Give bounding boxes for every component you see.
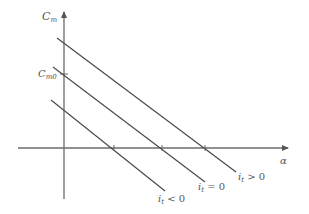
label-it-positive: it > 0 [238,171,265,184]
label-it-negative: it < 0 [158,193,185,206]
moment-lines [51,38,236,191]
cm-alpha-diagram: Cm Cm0 α it > 0 it = 0 it < 0 [0,0,309,214]
y-axis-label: Cm [42,10,57,24]
label-it-zero: it = 0 [198,181,225,194]
line-it-zero [53,67,205,182]
line-it-negative [51,100,165,191]
cm0-intercept-label: Cm0 [38,68,57,81]
diagram-svg: Cm Cm0 α it > 0 it = 0 it < 0 [0,0,309,214]
line-it-positive [57,38,236,172]
x-axis-label: α [280,155,287,166]
